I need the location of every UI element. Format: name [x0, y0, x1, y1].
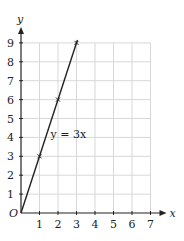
- y-tick-label: 5: [7, 113, 14, 126]
- y-axis-arrow-icon: [18, 27, 24, 34]
- x-axis-label: x: [170, 207, 177, 220]
- x-tick-label: 7: [147, 218, 154, 231]
- y-tick-label: 8: [7, 56, 14, 69]
- y-tick-label: 9: [7, 37, 14, 50]
- y-tick-label: 3: [7, 150, 14, 163]
- x-tick-label: 3: [73, 218, 80, 231]
- x-tick-label: 2: [55, 218, 62, 231]
- x-tick-label: 4: [92, 218, 99, 231]
- origin-label: O: [9, 207, 18, 220]
- y-tick-label: 1: [7, 188, 14, 201]
- line-chart: 1234567123456789 y = 3x x y O: [0, 0, 184, 241]
- x-tick-label: 1: [36, 218, 43, 231]
- x-tick-label: 6: [129, 218, 136, 231]
- data-series: [21, 40, 79, 213]
- x-axis-arrow-icon: [160, 210, 167, 216]
- y-tick-label: 6: [7, 94, 14, 107]
- y-tick-label: 2: [7, 169, 14, 182]
- x-tick-label: 5: [110, 218, 117, 231]
- y-tick-label: 4: [7, 131, 14, 144]
- y-tick-label: 7: [7, 75, 14, 88]
- equation-label: y = 3x: [50, 128, 87, 141]
- axes: [18, 27, 167, 216]
- series-line: [21, 40, 77, 213]
- y-axis-label: y: [16, 13, 24, 26]
